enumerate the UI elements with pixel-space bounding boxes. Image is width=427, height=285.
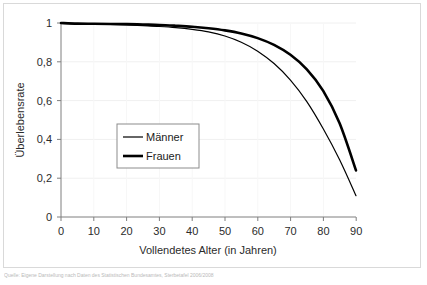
x-tick-label: 30 — [153, 225, 165, 237]
y-tick-label: 1 — [46, 17, 52, 29]
x-axis-ticks — [61, 217, 356, 221]
y-tick-label: 0,6 — [37, 95, 52, 107]
x-tick-label: 90 — [350, 225, 362, 237]
x-tick-label: 70 — [284, 225, 296, 237]
x-tick-label: 10 — [88, 225, 100, 237]
figure-container: 1 0,8 0,6 0,4 0,2 0 0 10 20 30 40 50 60 … — [0, 0, 427, 285]
x-tick-label: 80 — [317, 225, 329, 237]
y-tick-label: 0 — [46, 211, 52, 223]
y-tick-label: 0,4 — [37, 133, 52, 145]
chart-frame: 1 0,8 0,6 0,4 0,2 0 0 10 20 30 40 50 60 … — [3, 3, 421, 268]
x-tick-label: 20 — [120, 225, 132, 237]
y-axis-title: Überlebensrate — [14, 82, 26, 157]
legend-label-frauen: Frauen — [146, 150, 181, 162]
x-tick-label: 50 — [219, 225, 231, 237]
y-tick-labels: 1 0,8 0,6 0,4 0,2 0 — [37, 17, 52, 223]
y-tick-label: 0,8 — [37, 56, 52, 68]
legend[interactable]: Männer Frauen — [117, 124, 199, 168]
x-tick-label: 60 — [252, 225, 264, 237]
y-axis-ticks — [57, 23, 61, 217]
source-caption: Quelle: Eigene Darstellung nach Daten de… — [4, 272, 423, 283]
x-axis-title: Vollendetes Alter (in Jahren) — [139, 244, 277, 256]
x-tick-label: 0 — [58, 225, 64, 237]
legend-label-maenner: Männer — [146, 131, 184, 143]
x-tick-labels: 0 10 20 30 40 50 60 70 80 90 — [58, 225, 362, 237]
survival-rate-line-chart: 1 0,8 0,6 0,4 0,2 0 0 10 20 30 40 50 60 … — [4, 4, 420, 267]
x-tick-label: 40 — [186, 225, 198, 237]
plot-background — [61, 23, 356, 217]
y-tick-label: 0,2 — [37, 172, 52, 184]
